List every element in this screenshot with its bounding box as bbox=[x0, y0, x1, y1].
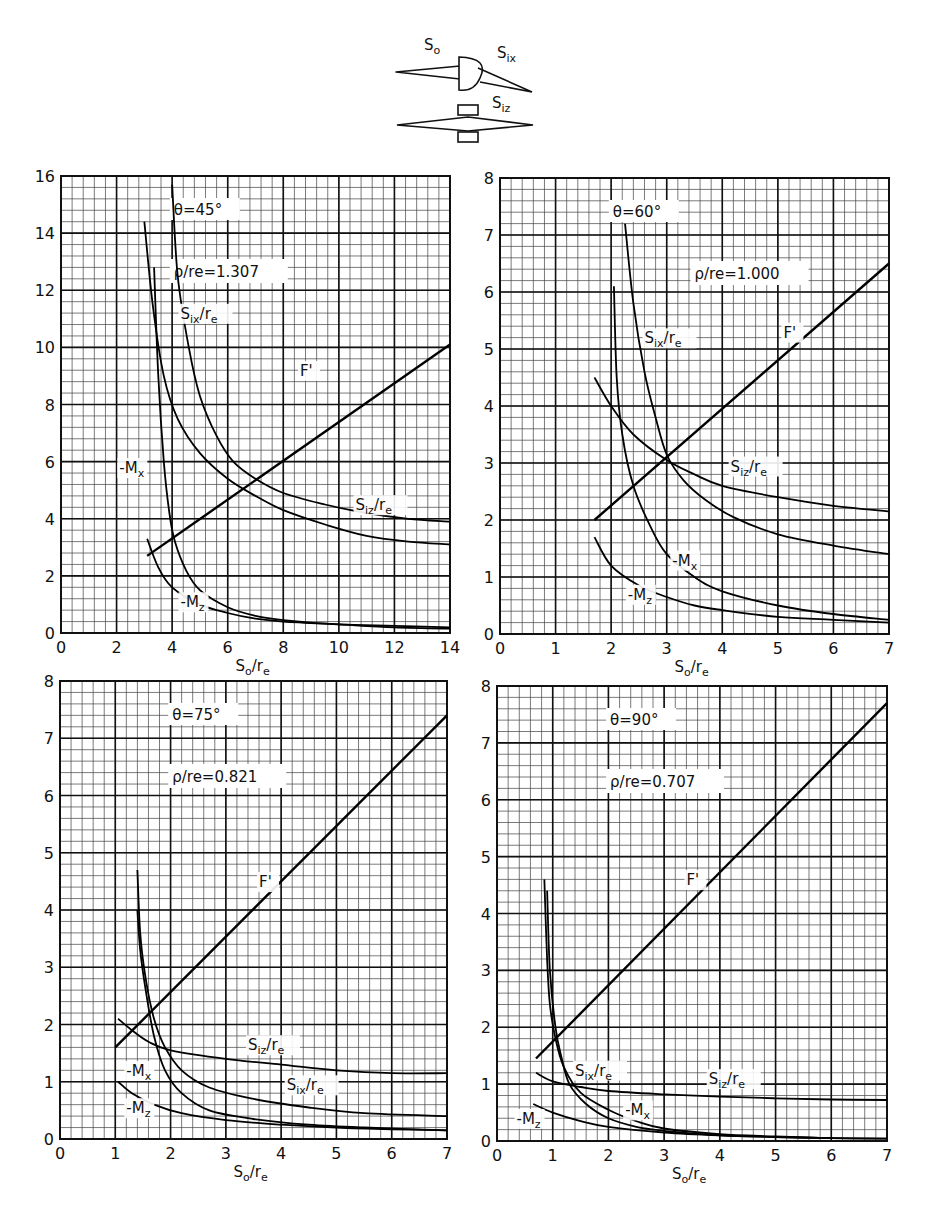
y-tick-label: 8 bbox=[45, 396, 55, 415]
series-sizre bbox=[172, 185, 450, 522]
plots-container: 024681012140246810121416So/reθ=45°ρ/re=1… bbox=[35, 167, 894, 1186]
y-tick-label: 2 bbox=[484, 511, 494, 530]
y-tick-label: 7 bbox=[484, 226, 494, 245]
y-tick-label: 7 bbox=[44, 729, 54, 748]
chart-title: θ=75° bbox=[172, 706, 220, 724]
x-tick-label: 4 bbox=[167, 638, 177, 657]
x-tick-label: 0 bbox=[55, 1144, 65, 1163]
x-tick-label: 6 bbox=[387, 1144, 397, 1163]
x-tick-label: 3 bbox=[221, 1144, 231, 1163]
x-tick-label: 7 bbox=[442, 1144, 452, 1163]
chart-theta75: 01234567012345678So/reθ=75°ρ/re=0.821F'S… bbox=[44, 672, 452, 1184]
y-tick-label: 0 bbox=[481, 1132, 491, 1151]
y-tick-label: 6 bbox=[44, 787, 54, 806]
y-tick-label: 6 bbox=[481, 791, 491, 810]
x-tick-label: 7 bbox=[882, 1146, 892, 1165]
curve-label: F' bbox=[259, 873, 272, 891]
y-tick-label: 2 bbox=[44, 1016, 54, 1035]
x-tick-label: 1 bbox=[548, 1146, 558, 1165]
y-tick-label: 10 bbox=[35, 338, 55, 357]
figure-canvas: So Six Siz 024681012140246810121416So/re… bbox=[0, 0, 940, 1225]
chart-theta45: 024681012140246810121416So/reθ=45°ρ/re=1… bbox=[35, 167, 461, 678]
y-tick-label: 6 bbox=[484, 283, 494, 302]
x-tick-label: 0 bbox=[56, 638, 66, 657]
y-tick-label: 14 bbox=[35, 224, 55, 243]
x-tick-label: 0 bbox=[495, 639, 505, 658]
x-tick-label: 7 bbox=[884, 639, 894, 658]
x-axis-label: So/re bbox=[236, 657, 271, 678]
y-tick-label: 8 bbox=[484, 169, 494, 188]
chart-title: θ=90° bbox=[610, 711, 658, 729]
x-tick-label: 4 bbox=[715, 1146, 725, 1165]
y-tick-label: 6 bbox=[45, 453, 55, 472]
y-tick-label: 2 bbox=[45, 567, 55, 586]
x-tick-label: 3 bbox=[662, 639, 672, 658]
x-tick-label: 0 bbox=[492, 1146, 502, 1165]
x-tick-label: 5 bbox=[770, 1146, 780, 1165]
y-tick-label: 16 bbox=[35, 167, 55, 186]
curve-label: F' bbox=[300, 362, 313, 380]
x-tick-label: 10 bbox=[329, 638, 349, 657]
schematic-label-so: So bbox=[424, 36, 441, 57]
y-tick-label: 1 bbox=[481, 1075, 491, 1094]
y-tick-label: 12 bbox=[35, 281, 55, 300]
x-tick-label: 1 bbox=[110, 1144, 120, 1163]
y-tick-label: 0 bbox=[45, 624, 55, 643]
y-tick-label: 1 bbox=[484, 568, 494, 587]
y-tick-label: 5 bbox=[481, 848, 491, 867]
x-tick-label: 5 bbox=[773, 639, 783, 658]
y-tick-label: 0 bbox=[484, 625, 494, 644]
x-tick-label: 1 bbox=[550, 639, 560, 658]
y-tick-label: 4 bbox=[45, 510, 55, 529]
x-tick-label: 6 bbox=[223, 638, 233, 657]
chart-title: θ=60° bbox=[613, 203, 661, 221]
y-tick-label: 3 bbox=[44, 958, 54, 977]
y-tick-label: 4 bbox=[44, 901, 54, 920]
y-tick-label: 4 bbox=[481, 905, 491, 924]
y-tick-label: 3 bbox=[481, 961, 491, 980]
series-mz bbox=[147, 539, 450, 629]
curve-label: F' bbox=[686, 871, 699, 889]
rho-annotation: ρ/re=0.821 bbox=[172, 768, 257, 786]
y-tick-label: 7 bbox=[481, 734, 491, 753]
y-tick-label: 5 bbox=[44, 844, 54, 863]
y-tick-label: 0 bbox=[44, 1130, 54, 1149]
x-tick-label: 5 bbox=[331, 1144, 341, 1163]
x-tick-label: 4 bbox=[276, 1144, 286, 1163]
x-tick-label: 14 bbox=[440, 638, 460, 657]
x-tick-label: 6 bbox=[828, 639, 838, 658]
schematic-label-siz: Siz bbox=[492, 94, 511, 115]
schematic-label-six: Six bbox=[497, 44, 517, 65]
y-tick-label: 4 bbox=[484, 397, 494, 416]
series-mx bbox=[547, 891, 831, 1138]
y-tick-label: 8 bbox=[44, 672, 54, 691]
lens-schematic bbox=[396, 57, 533, 142]
x-tick-label: 2 bbox=[165, 1144, 175, 1163]
y-tick-label: 8 bbox=[481, 677, 491, 696]
x-tick-label: 2 bbox=[603, 1146, 613, 1165]
x-tick-label: 8 bbox=[278, 638, 288, 657]
chart-theta60: 01234567012345678So/reθ=60°ρ/re=1.000F'S… bbox=[484, 169, 894, 679]
y-tick-label: 3 bbox=[484, 454, 494, 473]
x-axis-label: So/re bbox=[672, 1165, 707, 1186]
y-tick-label: 1 bbox=[44, 1073, 54, 1092]
x-tick-label: 4 bbox=[717, 639, 727, 658]
x-tick-label: 2 bbox=[606, 639, 616, 658]
rho-annotation: ρ/re=1.000 bbox=[695, 265, 780, 283]
x-tick-label: 12 bbox=[384, 638, 404, 657]
curve-label: F' bbox=[783, 324, 796, 342]
x-tick-label: 2 bbox=[111, 638, 121, 657]
series-f bbox=[536, 703, 887, 1058]
y-tick-label: 5 bbox=[484, 340, 494, 359]
rho-annotation: ρ/re=1.307 bbox=[174, 263, 259, 281]
chart-title: θ=45° bbox=[174, 201, 222, 219]
rho-annotation: ρ/re=0.707 bbox=[610, 773, 695, 791]
y-tick-label: 2 bbox=[481, 1018, 491, 1037]
x-axis-label: So/re bbox=[234, 1163, 269, 1184]
chart-theta90: 01234567012345678So/reθ=90°ρ/re=0.707F'S… bbox=[481, 677, 892, 1186]
x-tick-label: 3 bbox=[659, 1146, 669, 1165]
x-tick-label: 6 bbox=[826, 1146, 836, 1165]
x-axis-label: So/re bbox=[675, 658, 710, 679]
